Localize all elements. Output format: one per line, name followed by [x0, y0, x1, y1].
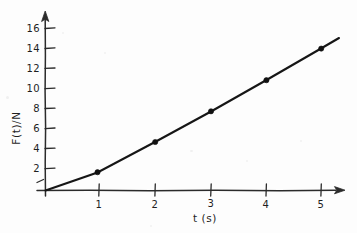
data-point — [95, 170, 100, 175]
y-tick-label-4: 4 — [33, 143, 40, 154]
x-tick-label-3: 3 — [208, 198, 215, 209]
y-tick-label-16: 16 — [26, 23, 40, 34]
y-tick-label-14: 14 — [26, 43, 40, 54]
y-tick-label-10: 10 — [26, 83, 40, 94]
x-tick-label-4: 4 — [263, 199, 270, 210]
y-tick-14 — [45, 48, 55, 49]
y-tick-label-8: 8 — [33, 103, 40, 114]
y-tick-16 — [45, 28, 55, 29]
x-tick-3 — [211, 184, 212, 196]
data-point — [319, 46, 324, 51]
y-tick-10 — [45, 88, 55, 89]
y-axis-title: F(t)/N — [10, 111, 22, 144]
data-point — [264, 78, 269, 83]
x-axis-line — [37, 190, 336, 191]
y-tick-label-12: 12 — [26, 63, 40, 74]
x-axis-group: 1 2 3 4 5 t (s) — [37, 184, 345, 224]
y-axis-group: 16 14 12 10 8 6 4 2 F(t)/N — [10, 11, 55, 196]
chart-canvas: 16 14 12 10 8 6 4 2 F(t)/N 1 — [0, 0, 357, 233]
y-tick-label-6: 6 — [33, 123, 40, 134]
y-tick-label-2: 2 — [33, 163, 40, 174]
data-point — [208, 109, 213, 114]
chart-figure: 16 14 12 10 8 6 4 2 F(t)/N 1 — [0, 0, 357, 233]
origin-stray-mark — [37, 180, 44, 183]
best-fit-line — [46, 38, 340, 191]
x-axis-title: t (s) — [193, 212, 217, 224]
y-tick-marks — [45, 28, 55, 169]
x-tick-label-5: 5 — [318, 199, 325, 210]
data-series-group — [46, 38, 340, 191]
y-tick-2 — [45, 168, 55, 169]
data-point — [153, 139, 158, 144]
y-axis-line — [45, 19, 46, 196]
x-tick-label-1: 1 — [96, 199, 103, 210]
x-tick-label-2: 2 — [152, 199, 159, 210]
y-tick-6 — [45, 128, 55, 129]
